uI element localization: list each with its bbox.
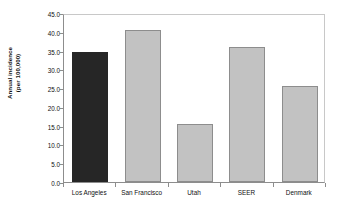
x-axis-tick-label: Los Angeles xyxy=(72,189,107,196)
y-axis-tick-label: 25.0 xyxy=(30,86,60,93)
y-axis-tick-label: 45.0 xyxy=(30,11,60,18)
y-axis-tick-label: 15.0 xyxy=(30,123,60,130)
bar-seer xyxy=(229,47,265,182)
x-axis-tickmark xyxy=(115,183,116,187)
x-axis-tick-labels: Los AngelesSan FranciscoUtahSEERDenmark xyxy=(63,189,325,203)
bar-san-francisco xyxy=(125,30,161,182)
y-axis-tick-labels: 0.05.010.015.020.025.030.035.040.045.0 xyxy=(30,14,60,183)
y-axis-title-line-2: (per 100,000) xyxy=(14,23,22,123)
x-axis-tick-label: SEER xyxy=(238,189,255,196)
bar-utah xyxy=(177,124,213,182)
y-axis-tick-label: 20.0 xyxy=(30,104,60,111)
x-axis-tick-label: Utah xyxy=(187,189,201,196)
bars-layer xyxy=(64,15,324,182)
bar-los-angeles xyxy=(72,52,108,182)
x-axis-tick-label: San Francisco xyxy=(121,189,162,196)
y-axis-title: Annual incidence (per 100,000) xyxy=(6,23,28,123)
plot-area xyxy=(63,14,325,183)
bar-denmark xyxy=(282,86,318,182)
y-axis-tick-label: 0.0 xyxy=(30,180,60,187)
y-axis-tick-label: 40.0 xyxy=(30,29,60,36)
y-axis-tick-label: 5.0 xyxy=(30,161,60,168)
x-axis-tick-label: Denmark xyxy=(286,189,312,196)
x-axis-tickmark xyxy=(325,183,326,187)
x-axis-tickmark xyxy=(63,183,64,187)
y-axis-tick-label: 10.0 xyxy=(30,142,60,149)
y-axis-title-line-1: Annual incidence xyxy=(6,23,14,123)
x-axis-tickmark xyxy=(273,183,274,187)
y-axis-tick-label: 30.0 xyxy=(30,67,60,74)
x-axis-tickmark xyxy=(168,183,169,187)
x-axis-tickmark xyxy=(220,183,221,187)
y-axis-tick-label: 35.0 xyxy=(30,48,60,55)
bar-chart-figure: Annual incidence (per 100,000) 0.05.010.… xyxy=(0,0,347,207)
